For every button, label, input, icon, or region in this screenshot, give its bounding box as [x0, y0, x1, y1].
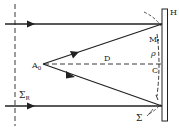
rho-label: ρ — [150, 49, 156, 58]
sigma-label: Σ — [136, 113, 142, 123]
distance-label: D — [104, 54, 110, 63]
source-label-sub: 0 — [38, 65, 42, 71]
screen-plate — [162, 9, 168, 121]
sigma-leader — [147, 109, 153, 116]
bottom-ray-arrow — [27, 103, 35, 110]
sigma-r-label-sub: R — [25, 95, 30, 101]
screen-label: H — [170, 8, 177, 17]
top-ray-arrow — [27, 21, 35, 28]
point-m-dot — [157, 39, 159, 41]
point-m-label: M — [149, 35, 157, 44]
sigma-r-label: ΣR — [19, 90, 30, 101]
near-screen-wavefront — [157, 34, 159, 96]
center-label: C — [152, 66, 158, 75]
optics-diagram: H M ρ C D A0 ΣR Σ — [0, 0, 179, 129]
lower-diverging-ray — [43, 64, 162, 106]
source-label: A0 — [31, 61, 42, 71]
upper-diverging-ray — [43, 24, 162, 64]
